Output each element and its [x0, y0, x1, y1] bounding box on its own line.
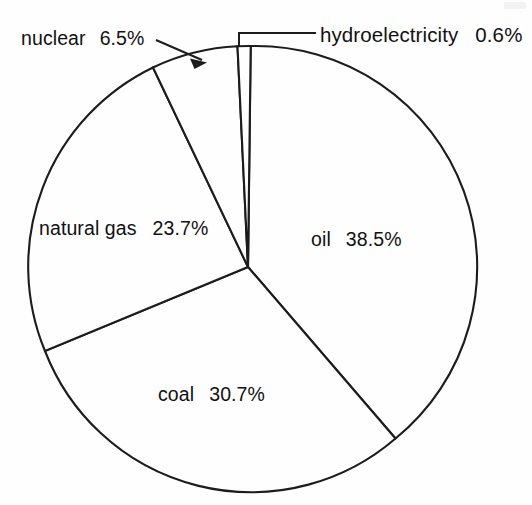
pie-label-natural-gas-value: 23.7%	[153, 217, 209, 239]
pie-label-hydroelectricity-value: 0.6%	[475, 23, 522, 46]
pie-chart-figure: nuclear6.5% hydroelectricity0.6% natural…	[0, 0, 532, 505]
pie-label-nuclear-name: nuclear	[21, 27, 86, 49]
pie-label-natural-gas: natural gas23.7%	[39, 217, 208, 240]
pie-label-hydroelectricity-name: hydroelectricity	[320, 23, 458, 46]
pie-label-oil: oil38.5%	[311, 228, 402, 251]
pie-label-coal-name: coal	[158, 383, 194, 405]
pie-label-oil-name: oil	[311, 228, 331, 250]
pie-label-nuclear-value: 6.5%	[100, 27, 145, 49]
pie-label-nuclear: nuclear6.5%	[21, 27, 145, 50]
pie-chart-svg	[0, 0, 532, 505]
hydroelectricity-leader-line	[239, 33, 316, 47]
pie-label-natural-gas-name: natural gas	[39, 217, 137, 239]
pie-label-oil-value: 38.5%	[346, 228, 402, 250]
scan-artifact	[504, 2, 526, 9]
pie-label-hydroelectricity: hydroelectricity0.6%	[320, 23, 522, 47]
pie-label-coal-value: 30.7%	[209, 383, 265, 405]
pie-label-coal: coal30.7%	[158, 383, 265, 406]
